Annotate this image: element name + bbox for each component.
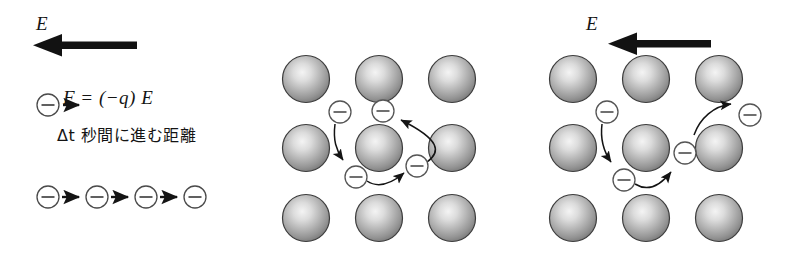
lattice-electron — [674, 142, 696, 164]
metal-ion-sphere — [550, 56, 597, 103]
lattice-electron — [406, 155, 428, 177]
physics-figure: E F = (−q) E Δt 秒間に進む距離 E — [0, 0, 786, 264]
middle-lattice — [283, 56, 476, 242]
metal-ion-sphere — [550, 195, 597, 242]
figure-graphics — [0, 0, 786, 264]
metal-ion-sphere — [356, 125, 403, 172]
scatter-path-1 — [334, 124, 343, 160]
metal-ion-sphere — [696, 125, 743, 172]
field-arrow-left — [33, 34, 137, 57]
field-arrow-right — [608, 33, 711, 56]
drift-path-2 — [635, 172, 671, 188]
metal-ion-sphere — [283, 195, 330, 242]
lattice-electron — [372, 100, 394, 122]
metal-ion-sphere — [429, 195, 476, 242]
lattice-electron — [329, 101, 351, 123]
scatter-path-2 — [367, 173, 404, 185]
right-lattice — [550, 56, 743, 242]
metal-ion-sphere — [696, 56, 743, 103]
metal-ion-sphere — [283, 56, 330, 103]
drift-electron-1 — [37, 186, 59, 208]
lattice-electron — [596, 101, 618, 123]
metal-ion-sphere — [550, 125, 597, 172]
drift-electron-2 — [86, 186, 108, 208]
lattice-electron — [345, 166, 367, 188]
metal-ion-sphere — [623, 195, 670, 242]
drift-electron-3 — [135, 186, 157, 208]
metal-ion-sphere — [356, 56, 403, 103]
metal-ion-sphere — [356, 195, 403, 242]
lattice-electron — [739, 104, 761, 126]
drift-chain — [37, 186, 206, 208]
metal-ion-sphere — [623, 125, 670, 172]
drift-path-1 — [601, 124, 611, 162]
metal-ion-sphere — [623, 56, 670, 103]
metal-ion-sphere — [696, 195, 743, 242]
metal-ion-sphere — [429, 56, 476, 103]
drift-electron-4 — [184, 186, 206, 208]
metal-ion-sphere — [283, 125, 330, 172]
lattice-electron — [613, 169, 635, 191]
single-electron — [37, 94, 59, 116]
